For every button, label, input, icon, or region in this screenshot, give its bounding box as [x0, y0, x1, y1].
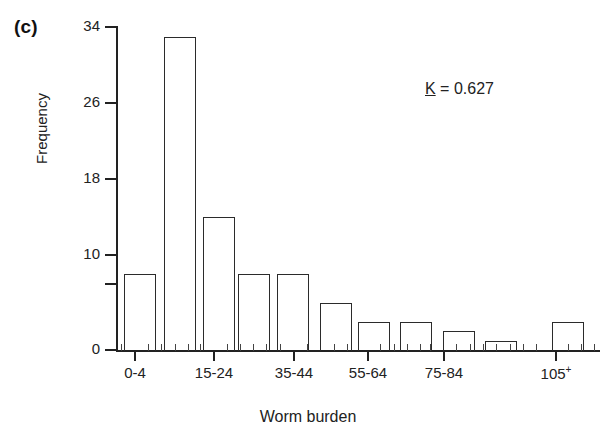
x-axis-title: Worm burden	[0, 408, 616, 426]
histogram-bar	[124, 274, 156, 351]
x-axis-tick-label: 35-44	[259, 364, 329, 381]
histogram-bar	[358, 322, 390, 352]
y-axis-tick-label: 0	[60, 340, 100, 357]
k-symbol: K	[425, 80, 436, 97]
y-axis-tick	[105, 102, 117, 104]
x-axis-major-tick	[367, 350, 369, 361]
y-axis-tick	[105, 178, 117, 180]
x-axis-major-tick	[134, 350, 136, 361]
histogram-bar	[400, 322, 432, 352]
x-axis-major-tick	[555, 350, 557, 361]
y-axis-tick	[105, 349, 117, 351]
k-value: = 0.627	[436, 80, 494, 97]
y-axis-tick-label: 10	[60, 245, 100, 262]
figure-panel-c: (c) Frequency Worm burden K = 0.627 3426…	[0, 0, 616, 446]
y-axis-tick	[105, 26, 117, 28]
histogram-bar	[443, 331, 475, 351]
x-axis-minor-tick	[200, 344, 201, 351]
x-axis-minor-tick	[523, 344, 524, 351]
y-axis-tick	[105, 283, 117, 285]
panel-letter: (c)	[14, 16, 38, 38]
k-annotation: K = 0.627	[425, 80, 494, 98]
y-axis-title: Frequency	[33, 64, 50, 194]
histogram-bar	[164, 37, 196, 352]
histogram-bar	[320, 303, 352, 352]
x-axis-minor-tick	[536, 344, 537, 351]
y-axis-tick	[105, 254, 117, 256]
x-axis-minor-tick	[483, 344, 484, 351]
histogram-bar	[238, 274, 270, 351]
x-axis-tick-label: 55-64	[333, 364, 403, 381]
x-axis-major-tick	[293, 350, 295, 361]
histogram-bar	[485, 341, 517, 352]
y-axis-tick-label: 26	[60, 93, 100, 110]
y-axis-tick-label: 18	[60, 169, 100, 186]
x-axis-tick-label: 0-4	[100, 364, 170, 381]
x-axis-tick-label: 15-24	[179, 364, 249, 381]
histogram-bar	[552, 322, 584, 352]
x-axis-tick-label: 105+	[521, 364, 591, 382]
x-axis-tick-label: 75-84	[409, 364, 479, 381]
histogram-bar	[277, 274, 309, 351]
x-axis-major-tick	[213, 350, 215, 361]
x-axis-minor-tick	[394, 344, 395, 351]
y-axis-tick-label: 34	[60, 17, 100, 34]
x-axis-minor-tick	[121, 344, 122, 351]
x-axis-major-tick	[443, 350, 445, 361]
histogram-bar	[203, 217, 235, 351]
y-axis-line	[116, 26, 118, 351]
x-axis-minor-tick	[594, 344, 595, 351]
x-axis-minor-tick	[161, 344, 162, 351]
